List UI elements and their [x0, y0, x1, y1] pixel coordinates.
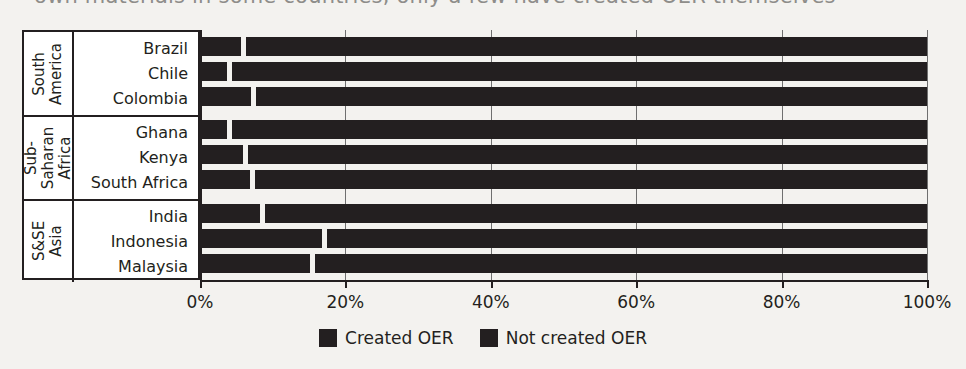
bar-track	[200, 170, 927, 189]
bar-track	[200, 62, 927, 81]
chart-legend: Created OERNot created OER	[0, 328, 966, 348]
axis-tick-label: 60%	[617, 292, 655, 312]
row-label: Ghana	[74, 120, 188, 145]
axis-tick-label: 20%	[326, 292, 364, 312]
group-label: South America	[24, 32, 74, 115]
row-label-list: IndiaIndonesiaMalaysia	[74, 201, 198, 282]
row-label: Indonesia	[74, 229, 188, 254]
bar-row[interactable]	[200, 34, 927, 59]
bar-row[interactable]	[200, 142, 927, 167]
axis-tick-label: 0%	[187, 292, 214, 312]
plot-area: 0%20%40%60%80%100%	[200, 30, 927, 280]
group-label: Sub- Saharan Africa	[24, 117, 74, 198]
bar-segment-not-created-oer[interactable]	[232, 120, 927, 139]
row-label-list: GhanaKenyaSouth Africa	[74, 117, 198, 198]
bar-row[interactable]	[200, 251, 927, 276]
row-label-list: BrazilChileColombia	[74, 32, 198, 115]
legend-label: Created OER	[345, 328, 454, 348]
bar-segment-created-oer[interactable]	[200, 37, 241, 56]
bar-segment-created-oer[interactable]	[200, 254, 310, 273]
cropped-caption-text: own materials in some countries, only a …	[0, 0, 966, 14]
bar-row[interactable]	[200, 226, 927, 251]
group-label: S&SE Asia	[24, 201, 74, 282]
row-label: India	[74, 204, 188, 229]
bar-segment-created-oer[interactable]	[200, 204, 260, 223]
bar-segment-not-created-oer[interactable]	[232, 62, 927, 81]
bar-group	[200, 197, 927, 280]
legend-item[interactable]: Not created OER	[480, 328, 647, 348]
bar-segment-not-created-oer[interactable]	[248, 145, 927, 164]
bar-segment-not-created-oer[interactable]	[246, 37, 927, 56]
axis-tick-label: 100%	[903, 292, 952, 312]
category-group: S&SE AsiaIndiaIndonesiaMalaysia	[24, 199, 198, 282]
bar-row[interactable]	[200, 167, 927, 192]
row-label: Malaysia	[74, 254, 188, 279]
axis-tick	[636, 280, 638, 288]
bar-track	[200, 145, 927, 164]
group-label-text: S&SE Asia	[31, 221, 65, 261]
category-group: South AmericaBrazilChileColombia	[24, 32, 198, 115]
bar-row[interactable]	[200, 201, 927, 226]
bar-segment-created-oer[interactable]	[200, 229, 322, 248]
bar-row[interactable]	[200, 117, 927, 142]
row-label: South Africa	[74, 170, 188, 195]
axis-tick	[927, 280, 929, 288]
legend-swatch	[480, 329, 498, 347]
group-label-text: South America	[31, 43, 65, 105]
row-label: Colombia	[74, 86, 188, 111]
legend-item[interactable]: Created OER	[319, 328, 454, 348]
bar-segment-created-oer[interactable]	[200, 170, 250, 189]
bar-segment-not-created-oer[interactable]	[265, 204, 927, 223]
category-label-box: South AmericaBrazilChileColombiaSub- Sah…	[22, 30, 200, 280]
row-label: Chile	[74, 61, 188, 86]
axis-tick	[200, 280, 202, 288]
bar-track	[200, 87, 927, 106]
bar-track	[200, 229, 927, 248]
axis-tick	[782, 280, 784, 288]
bar-row[interactable]	[200, 84, 927, 109]
bar-group	[200, 113, 927, 196]
axis-tick	[345, 280, 347, 288]
caption-fragment: own materials in some countries, only a …	[34, 0, 836, 8]
bar-track	[200, 120, 927, 139]
bar-segment-created-oer[interactable]	[200, 62, 227, 81]
axis-tick	[491, 280, 493, 288]
legend-label: Not created OER	[506, 328, 647, 348]
bar-track	[200, 254, 927, 273]
bar-row[interactable]	[200, 59, 927, 84]
bar-group	[200, 30, 927, 113]
bar-track	[200, 37, 927, 56]
row-label: Kenya	[74, 145, 188, 170]
bar-track	[200, 204, 927, 223]
stacked-bar-chart: own materials in some countries, only a …	[0, 0, 966, 369]
bar-segment-not-created-oer[interactable]	[315, 254, 927, 273]
bar-segment-not-created-oer[interactable]	[327, 229, 927, 248]
group-label-text: Sub- Saharan Africa	[23, 127, 74, 189]
axis-tick-label: 80%	[763, 292, 801, 312]
bar-segment-not-created-oer[interactable]	[256, 87, 927, 106]
axis-tick-label: 40%	[472, 292, 510, 312]
bar-segment-created-oer[interactable]	[200, 145, 243, 164]
x-axis-line	[200, 280, 927, 282]
bar-segment-created-oer[interactable]	[200, 120, 227, 139]
bar-segment-not-created-oer[interactable]	[255, 170, 927, 189]
category-group: Sub- Saharan AfricaGhanaKenyaSouth Afric…	[24, 115, 198, 198]
gridline	[927, 30, 928, 280]
bar-segment-created-oer[interactable]	[200, 87, 251, 106]
row-label: Brazil	[74, 36, 188, 61]
legend-swatch	[319, 329, 337, 347]
